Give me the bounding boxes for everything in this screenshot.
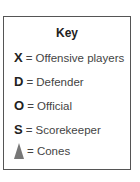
legend-label: = Offensive players <box>26 52 125 64</box>
legend-label: = Scorekeeper <box>26 124 101 136</box>
cone-icon <box>14 143 24 159</box>
legend-box: Key X = Offensive players D = Defender O… <box>3 16 131 170</box>
legend-item-defender: D = Defender <box>14 74 84 89</box>
o-symbol: O <box>14 98 24 113</box>
s-symbol: S <box>14 122 23 137</box>
d-symbol: D <box>14 74 23 89</box>
legend-item-offensive: X = Offensive players <box>14 50 124 65</box>
x-symbol: X <box>14 50 23 65</box>
legend-label: = Defender <box>26 76 83 88</box>
legend-item-cones: = Cones <box>14 143 70 159</box>
legend-item-scorekeeper: S = Scorekeeper <box>14 122 101 137</box>
legend-label: = Official <box>27 100 72 112</box>
legend-item-official: O = Official <box>14 98 72 113</box>
legend-title: Key <box>4 26 130 40</box>
legend-label: = Cones <box>27 145 70 157</box>
